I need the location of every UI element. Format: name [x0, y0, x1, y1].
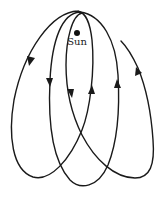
arrow-up-icon [88, 85, 95, 94]
arrow-down-icon [46, 78, 53, 87]
arrow-up-icon [114, 79, 121, 88]
orbit-diagram [0, 0, 167, 199]
sun-label: Sun [64, 36, 90, 48]
arrow-down-icon [27, 56, 35, 66]
